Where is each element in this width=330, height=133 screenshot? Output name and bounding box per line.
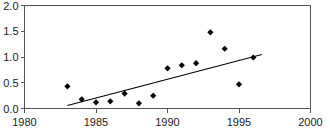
x-tick-label: 1985 [84, 116, 108, 128]
y-tick-label: 1.0 [3, 51, 18, 63]
x-axis-tick-labels: 19801985199019952000 [12, 116, 322, 128]
x-tick-label: 1990 [155, 116, 179, 128]
trend-line [67, 54, 261, 105]
data-point-marker [107, 98, 113, 104]
data-point-marker [136, 100, 142, 106]
data-point-marker [64, 83, 70, 89]
trend-line-path [67, 54, 261, 105]
y-axis-tick-labels: 0.00.51.01.52.0 [3, 0, 18, 115]
x-tick-label: 1980 [12, 116, 36, 128]
y-tick-label: 0.0 [3, 103, 18, 115]
y-tick-label: 1.5 [3, 25, 18, 37]
chart-canvas: 19801985199019952000 0.00.51.01.52.0 [0, 0, 330, 133]
data-point-marker [164, 65, 170, 71]
data-point-marker [222, 46, 228, 52]
scatter-chart: 19801985199019952000 0.00.51.01.52.0 [0, 0, 330, 133]
tick-marks [21, 6, 311, 113]
data-point-marker [93, 99, 99, 105]
data-points [64, 29, 256, 106]
data-point-marker [236, 81, 242, 87]
y-tick-label: 0.5 [3, 77, 18, 89]
data-point-marker [250, 54, 256, 60]
x-tick-label: 2000 [298, 116, 322, 128]
y-tick-label: 2.0 [3, 0, 18, 12]
data-point-marker [150, 93, 156, 99]
data-point-marker [193, 60, 199, 66]
data-point-marker [179, 62, 185, 68]
x-tick-label: 1995 [227, 116, 251, 128]
axes [25, 6, 311, 109]
data-point-marker [207, 29, 213, 35]
